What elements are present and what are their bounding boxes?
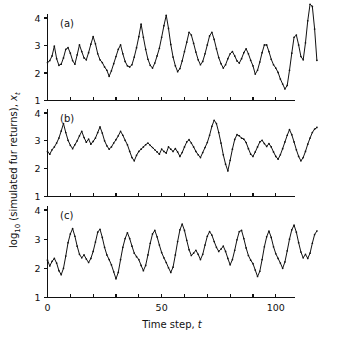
- series-point: [197, 253, 199, 255]
- series-point: [211, 234, 213, 236]
- series-point: [79, 253, 81, 255]
- series-point: [172, 56, 174, 58]
- series-point: [156, 236, 158, 238]
- series-point: [250, 259, 252, 261]
- series-point: [97, 132, 99, 134]
- series-point: [184, 51, 186, 53]
- series-point: [79, 44, 81, 46]
- series-point: [305, 151, 307, 153]
- series-point: [206, 235, 208, 237]
- series-point: [101, 237, 103, 239]
- series-point: [309, 252, 311, 254]
- series-point: [222, 154, 224, 156]
- series-point: [175, 65, 177, 67]
- y-tick-label: 1: [34, 191, 40, 202]
- series-point: [266, 236, 268, 238]
- series-point: [184, 146, 186, 148]
- series-point: [218, 132, 220, 134]
- series-point: [289, 69, 291, 71]
- series-point: [163, 151, 165, 153]
- panel-c-label: (c): [60, 210, 73, 221]
- series-point: [300, 56, 302, 58]
- series-point: [147, 142, 149, 144]
- series-point: [172, 266, 174, 268]
- series-point: [51, 260, 53, 262]
- y-tick-label: 4: [34, 13, 40, 24]
- series-point: [264, 246, 266, 248]
- series-point: [264, 143, 266, 145]
- series-point: [58, 137, 60, 139]
- series-point: [275, 67, 277, 69]
- series-point: [220, 248, 222, 250]
- series-point: [113, 271, 115, 273]
- series-point: [234, 55, 236, 57]
- series-point: [56, 142, 58, 144]
- series-point: [181, 152, 183, 154]
- series-point: [225, 251, 227, 253]
- series-point: [58, 270, 60, 272]
- series-point: [92, 36, 94, 38]
- series-point: [76, 140, 78, 142]
- series-point: [95, 43, 97, 45]
- series-point: [63, 123, 65, 125]
- series-point: [106, 145, 108, 147]
- series-point: [243, 138, 245, 140]
- series-point: [305, 42, 307, 44]
- series-point: [314, 28, 316, 30]
- series-point: [307, 20, 309, 22]
- series-point: [211, 126, 213, 128]
- series-point: [220, 63, 222, 65]
- series-point: [163, 25, 165, 27]
- series-point: [204, 53, 206, 55]
- series-point: [213, 241, 215, 243]
- series-point: [159, 244, 161, 246]
- series-point: [149, 242, 151, 244]
- series-point: [168, 267, 170, 269]
- series-point: [76, 54, 78, 56]
- series-point: [127, 144, 129, 146]
- series-point: [143, 270, 145, 272]
- series-point: [177, 71, 179, 73]
- y-axis-title: log10 (simulated fur returns), xt: [8, 92, 22, 248]
- series-point: [88, 262, 90, 264]
- series-point: [280, 78, 282, 80]
- series-point: [248, 148, 250, 150]
- series-point: [69, 144, 71, 146]
- panel-c: (c) 1234 050100: [34, 205, 317, 313]
- series-point: [261, 52, 263, 54]
- series-point: [85, 59, 87, 61]
- series-point: [311, 242, 313, 244]
- series-point: [232, 148, 234, 150]
- series-point: [234, 139, 236, 141]
- series-point: [72, 228, 74, 230]
- series-point: [296, 231, 298, 233]
- series-point: [252, 65, 254, 67]
- series-point: [188, 249, 190, 251]
- series-point: [280, 154, 282, 156]
- y-tick-label: 3: [34, 234, 40, 245]
- series-point: [129, 66, 131, 68]
- panel-a-label: (a): [60, 18, 74, 29]
- panel-c-y-tick-labels: 1234: [34, 205, 40, 304]
- series-point: [175, 148, 177, 150]
- series-point: [238, 135, 240, 137]
- series-point: [145, 265, 147, 267]
- panel-a-axis-lines: [48, 14, 296, 101]
- series-point: [85, 141, 87, 143]
- series-point: [117, 135, 119, 137]
- series-point: [140, 23, 142, 25]
- series-point: [129, 151, 131, 153]
- series-point: [193, 146, 195, 148]
- panel-b-series: [47, 119, 318, 171]
- series-point: [92, 141, 94, 143]
- series-point: [213, 119, 215, 121]
- svg-text:Time step, t: Time step, t: [141, 319, 203, 330]
- series-point: [302, 157, 304, 159]
- y-tick-label: 1: [34, 95, 40, 106]
- series-point: [268, 51, 270, 53]
- series-point: [69, 233, 71, 235]
- series-point: [88, 52, 90, 54]
- series-point: [209, 134, 211, 136]
- series-point: [131, 64, 133, 66]
- series-point: [149, 144, 151, 146]
